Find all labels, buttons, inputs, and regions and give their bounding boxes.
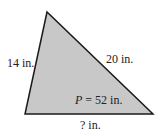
bottom-side-label: ? in.	[80, 119, 101, 131]
left-side-label: 14 in.	[7, 57, 34, 69]
perimeter-value: = 52 in.	[82, 93, 122, 107]
right-side-label: 20 in.	[106, 53, 133, 65]
perimeter-label: P = 52 in.	[75, 94, 122, 106]
